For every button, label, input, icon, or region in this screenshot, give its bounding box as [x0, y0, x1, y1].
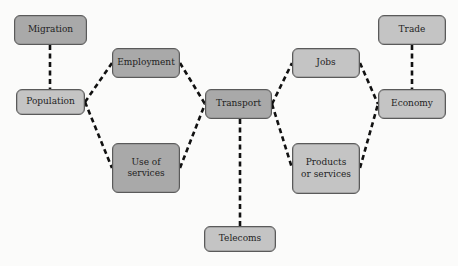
node-label: Use of services [115, 157, 177, 180]
edge-transport-products-or-services [272, 104, 292, 168]
edge-employment-transport [180, 63, 205, 104]
node-label: Population [26, 96, 75, 107]
node-label: Products or services [300, 157, 352, 180]
edge-population-employment [85, 63, 112, 102]
edge-transport-jobs [272, 63, 292, 104]
node-label: Jobs [316, 57, 335, 68]
node-population: Population [16, 89, 85, 115]
node-employment: Employment [112, 48, 180, 78]
node-products-or-services: Products or services [292, 143, 360, 194]
edge-use-of-services-transport [180, 104, 205, 168]
node-label: Telecoms [219, 233, 261, 244]
node-use-of-services: Use of services [112, 143, 180, 193]
edge-population-use-of-services [85, 102, 112, 168]
node-label: Economy [391, 98, 433, 109]
node-jobs: Jobs [292, 48, 360, 78]
node-transport: Transport [205, 89, 272, 119]
node-migration: Migration [14, 15, 87, 45]
node-telecoms: Telecoms [204, 226, 276, 252]
edge-jobs-economy [360, 63, 378, 104]
node-label: Migration [28, 24, 73, 35]
node-trade: Trade [378, 15, 446, 45]
node-label: Employment [117, 57, 175, 68]
node-economy: Economy [378, 89, 446, 119]
edge-products-or-services-economy [360, 104, 378, 168]
node-label: Trade [399, 24, 426, 35]
diagram-canvas: Migration Population Employment Use of s… [0, 0, 458, 266]
node-label: Transport [216, 98, 261, 109]
